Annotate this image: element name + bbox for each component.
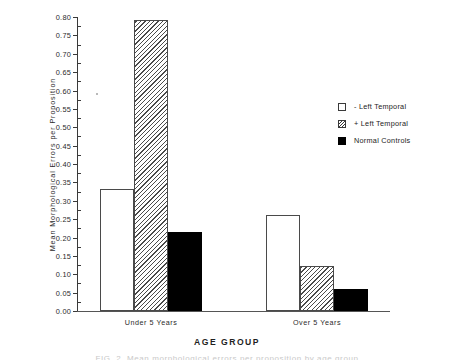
legend-item-3: Normal Controls xyxy=(338,132,410,149)
y-tick-mark xyxy=(73,201,77,202)
y-tick-mark xyxy=(73,182,77,183)
figure-caption-sliver: FIG. 2. Mean morphological errors per pr… xyxy=(0,354,454,360)
y-minor-tick-mark xyxy=(78,302,81,303)
open-square-swatch xyxy=(338,103,346,111)
legend-label: - Left Temporal xyxy=(354,102,406,111)
y-minor-tick-mark xyxy=(78,173,81,174)
y-tick-mark xyxy=(73,219,77,220)
y-tick-mark xyxy=(73,311,77,312)
y-minor-tick-mark xyxy=(78,100,81,101)
y-tick-label: 0.35 xyxy=(56,178,71,187)
legend-item-2: + Left Temporal xyxy=(338,115,410,132)
group-label-2: Over 5 Years xyxy=(293,318,341,327)
y-tick-mark xyxy=(73,127,77,128)
y-tick-label: 0.05 xyxy=(56,288,71,297)
y-minor-tick-mark xyxy=(78,192,81,193)
y-tick-label: 0.25 xyxy=(56,215,71,224)
bar-open-group2 xyxy=(266,215,300,311)
y-tick-label: 0.30 xyxy=(56,196,71,205)
y-tick-label: 0.50 xyxy=(56,123,71,132)
y-minor-tick-mark xyxy=(78,247,81,248)
legend-label: + Left Temporal xyxy=(354,119,408,128)
bar-hatched-group2 xyxy=(300,266,334,311)
y-tick-label: 0.10 xyxy=(56,270,71,279)
y-tick-label: 0.70 xyxy=(56,49,71,58)
scan-artifact-speck xyxy=(96,93,98,95)
bar-solid-group2 xyxy=(334,289,368,311)
bar-open-group1 xyxy=(100,189,134,311)
y-tick-label: 0.60 xyxy=(56,86,71,95)
y-tick-mark xyxy=(73,72,77,73)
y-minor-tick-mark xyxy=(78,45,81,46)
y-minor-tick-mark xyxy=(78,81,81,82)
y-minor-tick-mark xyxy=(78,228,81,229)
y-tick-label: 0.55 xyxy=(56,104,71,113)
y-minor-tick-mark xyxy=(78,265,81,266)
y-tick-mark xyxy=(73,293,77,294)
y-tick-mark xyxy=(73,109,77,110)
y-tick-label: 0.00 xyxy=(56,307,71,316)
y-minor-tick-mark xyxy=(78,63,81,64)
y-tick-mark xyxy=(73,91,77,92)
y-minor-tick-mark xyxy=(78,283,81,284)
x-axis-line xyxy=(77,311,390,312)
y-tick-mark xyxy=(73,35,77,36)
y-tick-mark xyxy=(73,256,77,257)
y-tick-mark xyxy=(73,146,77,147)
y-tick-mark xyxy=(73,17,77,18)
y-tick-label: 0.20 xyxy=(56,233,71,242)
y-axis-line xyxy=(77,17,78,311)
y-tick-label: 0.65 xyxy=(56,68,71,77)
y-tick-label: 0.40 xyxy=(56,160,71,169)
group-label-1: Under 5 Years xyxy=(125,318,178,327)
bar-hatched-group1 xyxy=(134,20,168,311)
legend-item-1: - Left Temporal xyxy=(338,98,410,115)
y-tick-label: 0.45 xyxy=(56,141,71,150)
y-tick-mark xyxy=(73,164,77,165)
y-minor-tick-mark xyxy=(78,26,81,27)
hatched-square-swatch xyxy=(338,120,346,128)
y-tick-label: 0.80 xyxy=(56,13,71,22)
y-tick-mark xyxy=(73,238,77,239)
bar-solid-group1 xyxy=(168,232,202,311)
y-minor-tick-mark xyxy=(78,136,81,137)
y-tick-mark xyxy=(73,54,77,55)
y-tick-mark xyxy=(73,274,77,275)
legend-label: Normal Controls xyxy=(354,136,410,145)
plot-area: 0.800.750.700.650.600.550.500.450.400.35… xyxy=(77,17,390,311)
filled-square-swatch xyxy=(338,137,346,145)
legend: - Left Temporal+ Left TemporalNormal Con… xyxy=(338,98,410,149)
y-minor-tick-mark xyxy=(78,210,81,211)
figure-bar-chart: Mean Morphological Errors per Propositio… xyxy=(0,0,454,360)
x-axis-label: AGE GROUP xyxy=(0,337,454,347)
y-tick-label: 0.75 xyxy=(56,31,71,40)
y-minor-tick-mark xyxy=(78,118,81,119)
y-minor-tick-mark xyxy=(78,155,81,156)
y-tick-label: 0.15 xyxy=(56,251,71,260)
